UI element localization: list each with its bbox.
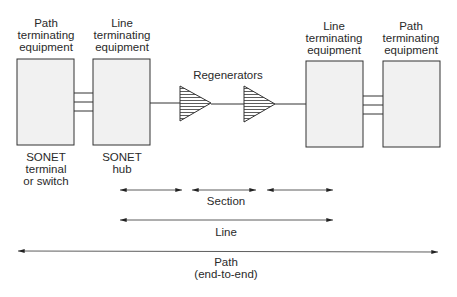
caption-line: SONET bbox=[16, 151, 76, 163]
title-line: Line bbox=[91, 17, 153, 29]
title-line: Path bbox=[380, 20, 442, 32]
lte-right-box bbox=[306, 61, 363, 147]
caption-line: or switch bbox=[16, 175, 76, 187]
pte-left-title: Path terminating equipment bbox=[16, 17, 76, 53]
lte-left-title: Line terminating equipment bbox=[91, 17, 153, 53]
title-line: Path bbox=[16, 17, 76, 29]
title-line: equipment bbox=[16, 41, 76, 53]
path-span-arrow bbox=[18, 251, 438, 252]
caption-line: hub bbox=[91, 163, 153, 175]
title-line: equipment bbox=[380, 44, 442, 56]
connector-left-triple bbox=[74, 93, 93, 111]
connector-right-triple bbox=[363, 96, 383, 114]
title-line: terminating bbox=[16, 29, 76, 41]
path-label: Path (end-to-end) bbox=[186, 256, 266, 280]
pte-right-title: Path terminating equipment bbox=[380, 20, 442, 56]
title-line: terminating bbox=[91, 29, 153, 41]
pte-left-box bbox=[17, 59, 74, 145]
line-label: Line bbox=[196, 226, 256, 238]
regenerator-icon-2 bbox=[244, 86, 275, 122]
regenerator-icon-1 bbox=[180, 86, 211, 121]
caption-line: terminal bbox=[16, 163, 76, 175]
title-line: Line bbox=[303, 20, 365, 32]
lte-right-title: Line terminating equipment bbox=[303, 20, 365, 56]
path-label-line: Path bbox=[186, 256, 266, 268]
lte-left-caption: SONET hub bbox=[91, 151, 153, 175]
pte-left-caption: SONET terminal or switch bbox=[16, 151, 76, 187]
title-line: terminating bbox=[380, 32, 442, 44]
pte-right-box bbox=[383, 61, 440, 147]
caption-line: SONET bbox=[91, 151, 153, 163]
title-line: equipment bbox=[303, 44, 365, 56]
title-line: terminating bbox=[303, 32, 365, 44]
title-line: equipment bbox=[91, 41, 153, 53]
fiber-line bbox=[150, 103, 306, 104]
regenerators-label: Regenerators bbox=[188, 69, 268, 81]
section-label: Section bbox=[196, 195, 256, 207]
lte-left-box bbox=[93, 59, 150, 145]
path-label-line: (end-to-end) bbox=[186, 268, 266, 280]
